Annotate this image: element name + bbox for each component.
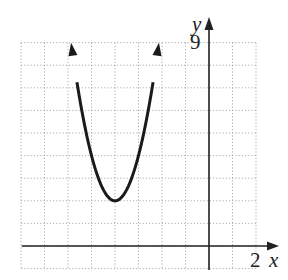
x-axis-label: x	[269, 248, 278, 273]
x-axis	[22, 242, 279, 251]
x-tick-2: 2	[250, 248, 261, 273]
arrow-right-icon	[153, 43, 162, 57]
y-axis	[205, 17, 214, 270]
y-tick-9: 9	[190, 30, 201, 55]
parabola-graph	[0, 0, 288, 280]
parabola-curve	[77, 82, 153, 201]
arrow-left-icon	[69, 43, 78, 57]
